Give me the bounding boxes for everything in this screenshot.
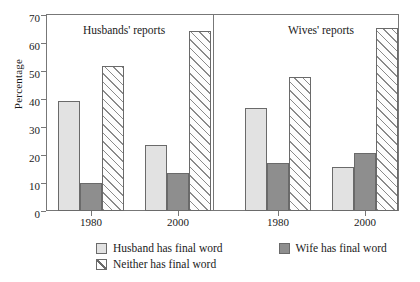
bar-wives-1980-husband [245, 108, 267, 211]
y-tick-label-30: 30 [0, 125, 40, 136]
bar-wives-1980-neither [289, 77, 311, 211]
legend-swatch-husband-icon [96, 243, 107, 254]
bar-husbands-2000-husband [145, 145, 167, 211]
panel-divider [213, 14, 214, 211]
x-tick-label-wives-2000: 2000 [335, 216, 395, 228]
legend-item-husband: Husband has final word [96, 242, 223, 254]
bar-husbands-1980-wife [80, 183, 102, 211]
legend-row-2: Neither has final word [96, 256, 387, 272]
y-tick-mark-0 [41, 211, 46, 212]
bar-wives-2000-husband [332, 167, 354, 211]
y-tick-label-70: 70 [0, 13, 40, 24]
bar-husbands-1980-neither [102, 66, 124, 211]
legend-label-husband: Husband has final word [113, 242, 223, 254]
y-tick-label-50: 50 [0, 69, 40, 80]
legend-label-neither: Neither has final word [113, 258, 216, 270]
bar-wives-1980-wife [267, 163, 289, 211]
y-tick-label-60: 60 [0, 41, 40, 52]
bar-wives-2000-wife [354, 153, 376, 211]
y-tick-label-20: 20 [0, 153, 40, 164]
y-tick-label-10: 10 [0, 181, 40, 192]
y-tick-label-0: 0 [0, 209, 40, 220]
chart-legend: Husband has final word Wife has final wo… [96, 240, 387, 272]
legend-swatch-wife-icon [279, 243, 290, 254]
x-tick-label-wives-1980: 1980 [248, 216, 308, 228]
legend-item-neither: Neither has final word [96, 258, 216, 270]
bar-husbands-2000-wife [167, 173, 189, 211]
legend-swatch-neither-icon [96, 259, 107, 270]
panel-title-husbands: Husbands' reports [49, 24, 199, 36]
y-tick-label-40: 40 [0, 97, 40, 108]
panel-title-wives: Wives' reports [246, 24, 396, 36]
legend-item-wife: Wife has final word [279, 242, 387, 254]
x-tick-label-husbands-2000: 2000 [148, 216, 208, 228]
bar-wives-2000-neither [376, 28, 398, 211]
x-tick-label-husbands-1980: 1980 [61, 216, 121, 228]
bar-husbands-1980-husband [58, 101, 80, 211]
bar-husbands-2000-neither [189, 31, 211, 211]
bar-chart: Percentage 0 10 20 30 40 50 60 70 Husban… [0, 0, 420, 282]
legend-label-wife: Wife has final word [296, 242, 387, 254]
legend-row-1: Husband has final word Wife has final wo… [96, 240, 387, 256]
